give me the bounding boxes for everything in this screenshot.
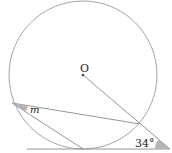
angle-m-shade [12,103,28,112]
angle-34-label: 34° [135,137,155,150]
line-from-center [83,75,170,149]
center-label: O [80,62,89,75]
circle-tangent-diagram: O m 34° [0,0,172,153]
angle-m-label: m [30,104,39,115]
angle-34-shade [155,139,170,149]
